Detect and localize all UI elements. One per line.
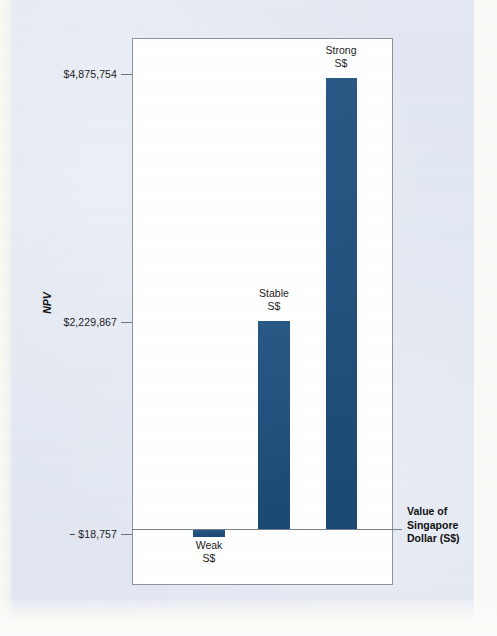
x-axis-title: Value of Singapore Dollar (S$) (407, 505, 493, 546)
ytick-mark-top (121, 74, 132, 75)
ytick-mark-mid (121, 322, 132, 323)
ytick-label-mid: $2,229,867 (25, 316, 117, 328)
y-axis-tick-labels: $4,875,754 $2,229,867 − $18,757 (22, 0, 117, 636)
ytick-label-top: $4,875,754 (25, 68, 117, 80)
ytick-label-zero: − $18,757 (25, 528, 117, 540)
bar-weak[interactable] (193, 529, 225, 537)
ytick-mark-zero (121, 534, 132, 535)
y-axis-title: NPV (41, 292, 53, 314)
bar-strong[interactable] (326, 78, 357, 529)
bar-label-strong: Strong S$ (301, 44, 381, 70)
bar-stable[interactable] (258, 321, 290, 529)
npv-bar-chart: $4,875,754 $2,229,867 − $18,757 NPV Stro… (0, 0, 497, 636)
zero-baseline (132, 529, 402, 530)
bar-label-stable: Stable S$ (234, 287, 314, 313)
bar-label-weak: Weak S$ (169, 539, 249, 565)
